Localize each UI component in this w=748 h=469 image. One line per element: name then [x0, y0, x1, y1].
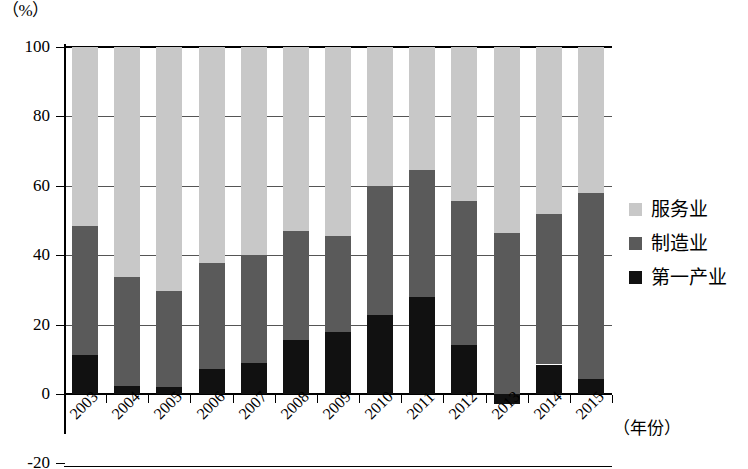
bar-segment-services [367, 47, 393, 186]
legend-item[interactable]: 制造业 [629, 234, 727, 253]
x-tick-2011 [443, 395, 444, 403]
bar-segment-primary [72, 355, 98, 394]
chart-legend: 服务业制造业第一产业 [629, 200, 727, 302]
bar-segment-manufacturing [283, 231, 309, 340]
legend-item[interactable]: 服务业 [629, 200, 727, 219]
legend-item-label: 制造业 [651, 234, 708, 253]
bar-segment-services [494, 47, 520, 233]
bar-segment-manufacturing [199, 263, 225, 369]
x-tick-2004 [148, 395, 149, 403]
x-tick-2003 [106, 395, 107, 403]
y-tick-label-60: 60 [2, 177, 50, 194]
bar-segment-manufacturing [578, 193, 604, 379]
legend-swatch-icon [629, 237, 642, 250]
bar-segment-services [156, 47, 182, 291]
x-tick-2008 [317, 395, 318, 403]
legend-item-label: 第一产业 [651, 268, 727, 287]
bar-segment-primary [325, 332, 351, 394]
y-tick-label-20: 20 [2, 316, 50, 333]
bar-segment-manufacturing [409, 170, 435, 297]
bar-segment-primary [283, 340, 309, 394]
y-tick-label-40: 40 [2, 246, 50, 263]
bar-segment-manufacturing [494, 233, 520, 394]
bar-segment-manufacturing [325, 236, 351, 332]
x-tick-2015 [612, 395, 613, 403]
figure-baseline-rule [64, 466, 612, 467]
legend-swatch-icon [629, 271, 642, 284]
bar-segment-services [199, 47, 225, 263]
bar-segment-services [114, 47, 140, 277]
legend-item-label: 服务业 [651, 200, 708, 219]
x-tick-2007 [275, 395, 276, 403]
x-tick-2014 [570, 395, 571, 403]
y-tick-label-80: 80 [2, 107, 50, 124]
bar-segment-primary [409, 297, 435, 394]
y-tick-label-100: 100 [2, 38, 50, 55]
x-tick-2012 [486, 395, 487, 403]
stacked-bar-chart: （%） -20020406080100 20032004200520062007… [0, 0, 748, 469]
bar-segment-primary [451, 345, 477, 394]
bar-segment-manufacturing [114, 277, 140, 386]
y-tick-label--20: -20 [2, 454, 50, 469]
y-axis-unit-caption: （%） [2, 2, 49, 19]
bar-segment-manufacturing [72, 226, 98, 355]
bar-segment-manufacturing [241, 255, 267, 363]
bar-segment-manufacturing [536, 214, 562, 365]
bar-segment-manufacturing [156, 291, 182, 387]
bar-segment-primary [241, 363, 267, 394]
x-tick-2013 [528, 395, 529, 403]
bar-segment-services [72, 47, 98, 226]
bar-segment-services [536, 47, 562, 214]
x-tick-2009 [359, 395, 360, 403]
legend-swatch-icon [629, 203, 642, 216]
x-tick-2010 [401, 395, 402, 403]
x-axis-title: （年份） [613, 420, 681, 437]
bar-segment-services [578, 47, 604, 193]
bar-segment-services [241, 47, 267, 255]
y-tick--20 [56, 463, 65, 464]
bar-segment-services [283, 47, 309, 231]
bar-segment-primary [536, 365, 562, 394]
bar-segment-services [451, 47, 477, 201]
y-tick-label-0: 0 [2, 385, 50, 402]
bar-segment-manufacturing [367, 186, 393, 315]
x-tick-2006 [233, 395, 234, 403]
bar-segment-services [325, 47, 351, 236]
bar-segment-services [409, 47, 435, 170]
bar-segment-manufacturing [451, 201, 477, 345]
bar-segment-primary [367, 315, 393, 394]
x-tick-2005 [190, 395, 191, 403]
y-axis-line [64, 44, 66, 434]
legend-item[interactable]: 第一产业 [629, 268, 727, 287]
